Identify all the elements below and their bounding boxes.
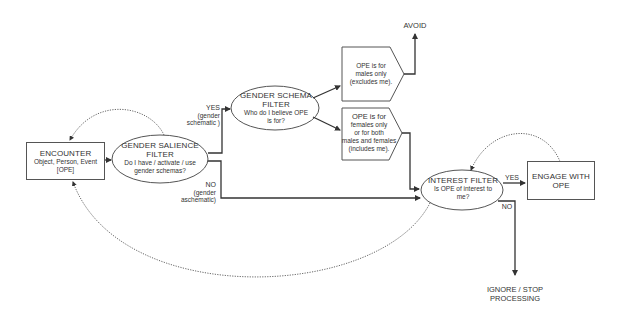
avoid-node: AVOID: [395, 22, 435, 31]
label-interest-yes: YES: [502, 174, 522, 182]
males-only-line-3: (excludes me).: [342, 78, 400, 86]
label-no-aschematic: NO (gender aschematic): [176, 181, 216, 204]
interest-filter-node: INTEREST FILTER Is OPE of interest to me…: [424, 176, 502, 201]
gender-schema-title-2: FILTER: [233, 100, 319, 109]
encounter-node: ENCOUNTER Object, Person, Event [OPE]: [26, 142, 105, 180]
label-no-aschematic-3: aschematic): [176, 196, 216, 204]
gender-salience-sub-2: gender schemas?: [112, 167, 208, 175]
label-yes-schematic-1: YES: [186, 104, 220, 112]
engage-node: ENGAGE WITH OPE: [527, 161, 595, 200]
gender-salience-sub-1: Do I have / activate / use: [112, 159, 208, 167]
encounter-sub-1: Object, Person, Event: [34, 158, 97, 166]
interest-filter-sub-1: Is OPE of interest to: [424, 185, 502, 193]
interest-filter-title: INTEREST FILTER: [424, 176, 502, 185]
gender-salience-title-2: FILTER: [112, 150, 208, 159]
edge-females-interest: [402, 133, 419, 189]
females-both-node: OPE is for females only or for both male…: [338, 113, 400, 153]
females-both-line-5: (includes me).: [338, 145, 400, 153]
edge-salience-interest-no: [208, 161, 420, 198]
females-both-line-2: females only: [338, 121, 400, 129]
feedback-interest-encounter: [73, 182, 430, 277]
ignore-node: IGNORE / STOP PROCESSING: [480, 286, 550, 303]
males-only-node: OPE is for males only (excludes me).: [342, 62, 400, 86]
males-only-line-1: OPE is for: [342, 62, 400, 70]
label-interest-no: NO: [500, 203, 514, 211]
label-yes-schematic-3: schematic ): [186, 119, 220, 127]
engage-line-2: OPE: [552, 181, 569, 190]
females-both-line-4: males and females: [338, 137, 400, 145]
label-yes-schematic-2: (gender: [186, 112, 220, 120]
interest-filter-sub-2: me?: [424, 193, 502, 201]
gender-salience-title-1: GENDER SALIENCE: [112, 141, 208, 150]
encounter-title: ENCOUNTER: [40, 149, 92, 158]
females-both-line-1: OPE is for: [338, 113, 400, 121]
gender-schema-sub-1: Who do I believe OPE: [233, 109, 319, 117]
gender-schema-sub-2: is for?: [233, 117, 319, 125]
label-no-aschematic-1: NO: [176, 181, 216, 189]
gender-schema-title-1: GENDER SCHEMA: [233, 91, 319, 100]
encounter-sub-2: [OPE]: [57, 166, 74, 174]
ignore-line-2: PROCESSING: [480, 295, 550, 304]
gender-salience-node: GENDER SALIENCE FILTER Do I have / activ…: [112, 141, 208, 175]
gender-schema-node: GENDER SCHEMA FILTER Who do I believe OP…: [233, 91, 319, 125]
females-both-line-3: or for both: [338, 129, 400, 137]
label-yes-schematic: YES (gender schematic ): [186, 104, 220, 127]
males-only-line-2: males only: [342, 70, 400, 78]
edge-males-avoid: [404, 34, 415, 74]
label-no-aschematic-2: (gender: [176, 189, 216, 197]
engage-line-1: ENGAGE WITH: [532, 172, 590, 181]
edge-interest-ignore-no: [498, 201, 515, 275]
